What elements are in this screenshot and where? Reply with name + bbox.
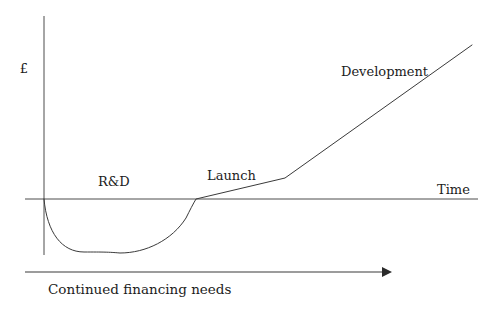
x-axis-label: Time: [437, 182, 470, 197]
rnd-phase-label: R&D: [98, 174, 130, 189]
j-curve-chart: £ Time R&D Launch Development Continued …: [0, 0, 500, 318]
financing-caption: Continued financing needs: [48, 281, 231, 297]
chart-canvas: £ Time R&D Launch Development Continued …: [0, 0, 500, 318]
launch-phase-label: Launch: [207, 168, 256, 183]
y-axis-label: £: [20, 61, 28, 76]
chart-background: [0, 0, 500, 318]
development-phase-label: Development: [341, 64, 429, 79]
